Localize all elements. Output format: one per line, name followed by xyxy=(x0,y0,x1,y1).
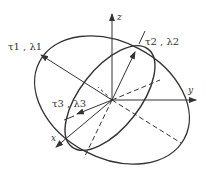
label-z-axis: z xyxy=(116,12,122,22)
outer-ellipse xyxy=(12,10,206,175)
principal-axis-2 xyxy=(112,52,135,100)
label-tau2-lambda2: τ2 , λ2 xyxy=(145,36,179,47)
principal-axis-1-dashed xyxy=(112,100,181,143)
principal-axis-dashed-ul xyxy=(98,87,112,100)
ellipsoid-diagram: τ1 , λ1 τ2 , λ2 τ3 , λ3 z y x xyxy=(0,0,206,175)
label-x-axis: x xyxy=(51,133,56,143)
principal-axis-3-dashed xyxy=(112,80,160,100)
principal-axis-3-tick xyxy=(64,116,74,120)
label-tau1-lambda1: τ1 , λ1 xyxy=(8,41,42,52)
label-y-axis: y xyxy=(187,85,194,95)
principal-axis-2-dashed xyxy=(84,100,112,158)
label-tau3-lambda3: τ3 , λ3 xyxy=(52,98,86,109)
